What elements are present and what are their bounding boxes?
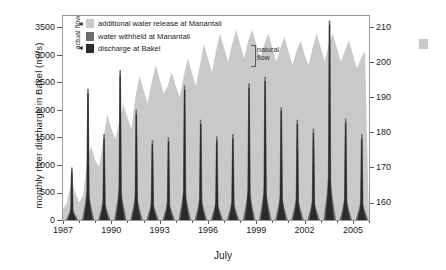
legend-swatch-additional-release [86,19,94,28]
y-tick-left: 1000 [30,160,62,170]
y-tick-left: 3500 [30,22,62,32]
y-tick-right: 190 [369,92,391,102]
y-tick-right: 180 [369,127,391,137]
y-tick-left: 1500 [30,132,62,142]
x-tick-label: 2002 [295,225,315,235]
legend-swatch-discharge-bakel [86,44,94,53]
natural-flow-bracket [251,45,256,67]
y-tick-right: 160 [369,197,391,207]
y-tick-left: 2500 [30,77,62,87]
lake-level-swatch [419,39,428,49]
legend-label-discharge-bakel: discharge at Bakel [98,44,160,53]
x-tick-label: 1987 [53,225,73,235]
chart-root: monthly river discharge in Bakel (m³/s) … [0,0,446,270]
legend-item: discharge at Bakel [86,43,222,54]
y-tick-left: 500 [30,187,62,197]
y-tick-left: 2000 [30,105,62,115]
x-axis-title: July [0,250,446,261]
y-tick-right: 210 [369,22,391,32]
x-tick-label: 1996 [198,225,218,235]
legend-arrow-up-icon: ◄ [77,20,84,27]
natural-flow-line-2: flow [257,54,279,62]
legend-item: water withheld at Manantali [86,31,222,42]
y-tick-left: 3000 [30,50,62,60]
legend-label-additional-release: additional water release at Manantali [98,19,222,28]
x-tick-label: 1993 [150,225,170,235]
chart-legend: actual flow ◄ ◄ additional water release… [66,18,222,56]
legend-natural-flow-label: natural flow [257,46,279,62]
y-tick-right: 170 [369,162,391,172]
y-tick-right: 200 [369,57,391,67]
x-tick-label: 2005 [343,225,363,235]
y-tick-left: 0 [30,215,62,225]
legend-arrow-down-icon: ◄ [77,44,84,51]
legend-swatch-water-withheld [86,32,94,41]
x-tick-label: 1990 [101,225,121,235]
legend-item: additional water release at Manantali [86,18,222,29]
x-tick-label: 1999 [246,225,266,235]
legend-label-water-withheld: water withheld at Manantali [98,32,190,41]
